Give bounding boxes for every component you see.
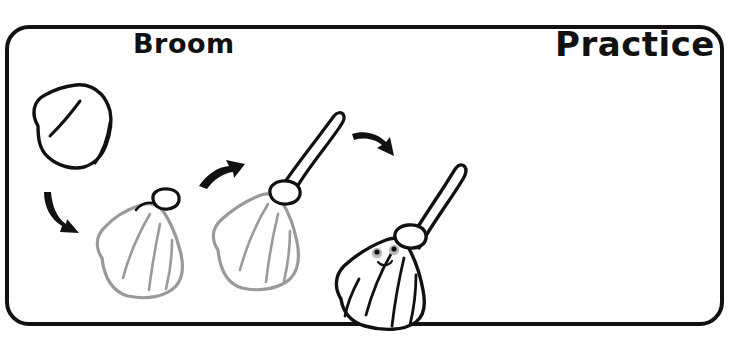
worksheet-frame <box>5 25 724 326</box>
worksheet-page: Broom Practice <box>0 0 751 343</box>
page-title-practice: Practice <box>555 25 715 63</box>
page-title-subject: Broom <box>133 29 235 59</box>
